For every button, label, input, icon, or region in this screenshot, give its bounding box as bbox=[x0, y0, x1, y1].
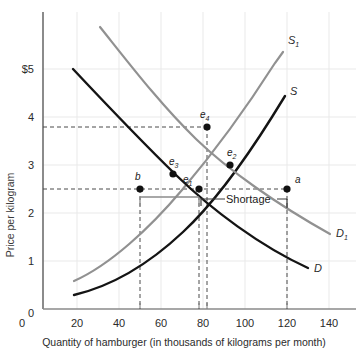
y-tick-2: 2 bbox=[28, 207, 34, 219]
point-e4-marker[interactable] bbox=[203, 123, 210, 130]
y-tick-4: 4 bbox=[28, 111, 34, 123]
y-tick-labels: $5 4 3 2 1 0 bbox=[22, 63, 34, 319]
curve-s1 bbox=[74, 52, 283, 281]
x-tick-20: 20 bbox=[71, 317, 83, 329]
y-tick-0: 0 bbox=[28, 307, 34, 319]
shortage-annotation: Shortage bbox=[226, 193, 271, 205]
curve-label-s1: S1S1 bbox=[288, 34, 299, 48]
x-tick-labels: 20 40 60 80 100 120 140 0 bbox=[19, 317, 338, 329]
x-tick-100: 100 bbox=[236, 317, 254, 329]
x-tick-60: 60 bbox=[155, 317, 167, 329]
point-e1-label: e1 bbox=[183, 174, 193, 187]
y-tick-3: 3 bbox=[28, 159, 34, 171]
point-b-marker[interactable] bbox=[136, 185, 143, 192]
supply-demand-chart: Shortage e1 e2 e3 e4 b a S1S1 S D1 D $5 … bbox=[0, 0, 362, 353]
point-e4-label: e4 bbox=[200, 109, 210, 122]
point-e2-label: e2 bbox=[227, 147, 237, 160]
y-tick-1: 1 bbox=[28, 255, 34, 267]
point-e3-marker[interactable] bbox=[169, 170, 176, 177]
curve-d1 bbox=[100, 27, 330, 234]
point-b-label: b bbox=[135, 171, 141, 182]
axes bbox=[43, 12, 356, 309]
curve-d bbox=[73, 69, 308, 268]
x-tick-120: 120 bbox=[278, 317, 296, 329]
x-tick-40: 40 bbox=[113, 317, 125, 329]
point-a-marker[interactable] bbox=[283, 185, 290, 192]
curve-label-d: D bbox=[314, 262, 322, 274]
point-e1-marker[interactable] bbox=[195, 185, 202, 192]
grid-lines bbox=[43, 12, 356, 309]
x-tick-marks bbox=[140, 303, 287, 309]
x-tick-140: 140 bbox=[320, 317, 338, 329]
curve-label-s: S bbox=[290, 85, 298, 97]
y-axis-title: Price per kilogram bbox=[4, 172, 16, 257]
point-a-label: a bbox=[295, 174, 301, 185]
curve-label-d1: D1 bbox=[336, 227, 348, 241]
x-tick-80: 80 bbox=[197, 317, 209, 329]
point-e2-marker[interactable] bbox=[226, 161, 233, 168]
y-tick-5: $5 bbox=[22, 63, 34, 75]
x-tick-0: 0 bbox=[19, 317, 25, 329]
guide-lines bbox=[43, 127, 290, 309]
point-e3-label: e3 bbox=[169, 156, 179, 169]
chart-svg: Shortage e1 e2 e3 e4 b a S1S1 S D1 D $5 … bbox=[0, 0, 362, 353]
x-axis-title: Quantity of hamburger (in thousands of k… bbox=[42, 336, 326, 348]
